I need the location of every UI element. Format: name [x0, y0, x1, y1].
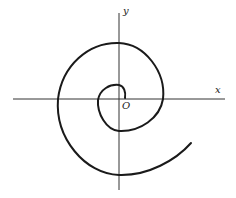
y-axis-label: y [123, 6, 129, 16]
spiral-diagram: y x O [0, 0, 236, 198]
x-axis-label: x [215, 85, 221, 95]
diagram-canvas [0, 0, 236, 198]
origin-label: O [122, 101, 130, 111]
